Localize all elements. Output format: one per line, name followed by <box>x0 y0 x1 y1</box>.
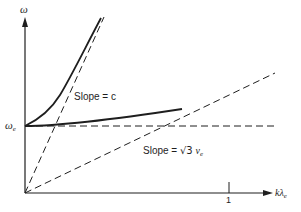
omega-e-sub: e <box>13 125 16 133</box>
slope-c-label: Slope = c <box>74 92 116 102</box>
light-line <box>25 17 104 193</box>
diagram-canvas <box>0 0 301 212</box>
ve-sub: e <box>200 150 203 158</box>
omega-e-label: ωe <box>5 120 16 131</box>
y-axis-label: ω <box>20 4 28 15</box>
slope-sound-prefix: Slope = <box>143 145 180 156</box>
omega-e-main: ω <box>5 119 13 131</box>
x-tick-label-text: 1 <box>226 195 231 205</box>
sqrt3-text: √3 <box>180 145 193 156</box>
x-axis-arrow-icon <box>263 190 273 196</box>
y-axis-label-text: ω <box>20 3 28 15</box>
slope-c-text: Slope = c <box>74 91 116 102</box>
dispersion-diagram: ω ωe Slope = c Slope = √3 ve 1 kλe <box>0 0 301 212</box>
x-tick-label: 1 <box>226 196 231 205</box>
slope-sound-label: Slope = √3 ve <box>143 146 203 156</box>
x-axis-label-main: kλ <box>275 187 284 198</box>
y-axis-arrow-icon <box>22 17 28 27</box>
x-axis-label: kλe <box>275 188 287 198</box>
electromagnetic-branch-curve <box>25 18 101 126</box>
x-axis-label-sub: e <box>284 192 287 200</box>
electron-plasma-branch-curve <box>25 109 182 126</box>
